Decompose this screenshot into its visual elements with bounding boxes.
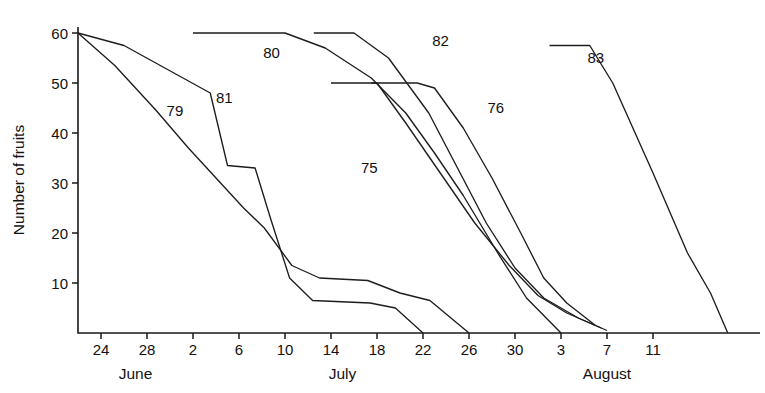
series-line-76 — [371, 83, 595, 326]
y-tick-label: 60 — [51, 25, 68, 42]
series-line-79 — [78, 33, 469, 333]
x-tick-label: 14 — [323, 341, 340, 358]
series-label-82: 82 — [432, 32, 449, 49]
x-tick-label: 24 — [93, 341, 110, 358]
series-label-79: 79 — [167, 102, 184, 119]
y-tick-label: 20 — [51, 225, 68, 242]
series-label-80: 80 — [263, 44, 280, 61]
x-tick-label: 28 — [139, 341, 156, 358]
month-label: July — [329, 365, 357, 382]
series-lines — [78, 33, 728, 333]
x-tick-label: 6 — [235, 341, 243, 358]
series-line-80 — [193, 33, 561, 333]
month-labels: JuneJulyAugust — [119, 365, 632, 382]
x-tick-label: 22 — [415, 341, 432, 358]
series-label-81: 81 — [216, 89, 233, 106]
x-tick-label: 26 — [461, 341, 478, 358]
chart-container: 102030405060 2428261014182226303711 June… — [0, 0, 765, 393]
x-tick-label: 18 — [369, 341, 386, 358]
month-label: August — [583, 365, 632, 382]
series-label-76: 76 — [487, 99, 504, 116]
y-tick-label: 50 — [51, 75, 68, 92]
x-tick-label: 3 — [557, 341, 565, 358]
y-axis-tick-labels: 102030405060 — [51, 25, 68, 292]
series-label-75: 75 — [361, 159, 378, 176]
x-tick-label: 10 — [277, 341, 294, 358]
y-tick-label: 40 — [51, 125, 68, 142]
x-tick-label: 11 — [645, 341, 661, 358]
x-tick-label: 30 — [507, 341, 524, 358]
series-label-83: 83 — [587, 49, 604, 66]
x-tick-label: 2 — [189, 341, 197, 358]
series-line-83 — [550, 46, 728, 334]
line-chart-svg: 102030405060 2428261014182226303711 June… — [0, 0, 765, 393]
month-label: June — [119, 365, 153, 382]
y-axis-title: Number of fruits — [10, 125, 27, 236]
y-tick-label: 30 — [51, 175, 68, 192]
x-axis-tick-labels: 2428261014182226303711 — [93, 341, 661, 358]
series-line-82 — [314, 33, 607, 331]
x-tick-label: 7 — [603, 341, 611, 358]
axis-lines — [78, 27, 760, 333]
series-inline-labels: 79818082757683 — [167, 32, 605, 177]
series-line-75 — [331, 83, 601, 328]
y-tick-label: 10 — [51, 275, 68, 292]
